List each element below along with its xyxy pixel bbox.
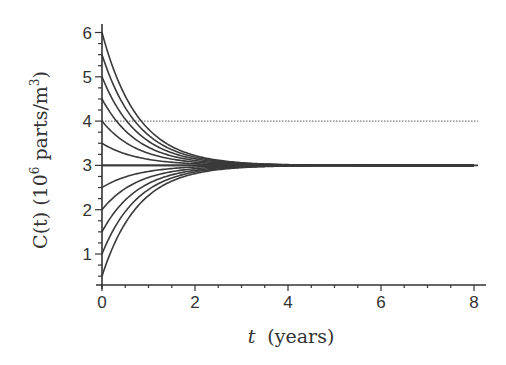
y-axis-title: C(t) (106 parts/m3) (28, 71, 51, 249)
x-tick-label: 2 (190, 293, 199, 312)
y-axis-ticks: 123456 (83, 24, 102, 277)
solution-curve (102, 55, 474, 166)
y-axis-title-prefix: C(t) (10 (29, 174, 51, 249)
x-axis-ticks: 02468 (97, 285, 478, 312)
x-tick-label: 8 (469, 293, 478, 312)
axes: 02468 123456 (83, 24, 486, 313)
x-tick-label: 4 (283, 293, 292, 312)
y-axis-title-exp: 6 (28, 167, 42, 175)
y-axis-title-exp2: 3 (28, 79, 42, 87)
y-tick-label: 1 (83, 245, 92, 264)
x-tick-label: 0 (97, 293, 106, 312)
solution-curve (102, 165, 474, 276)
y-axis-title-mid: parts/m (29, 86, 51, 166)
y-tick-label: 6 (83, 24, 92, 43)
y-tick-label: 3 (83, 156, 92, 175)
solution-curve (102, 33, 474, 166)
x-axis-title-unit: (years) (267, 325, 334, 347)
solution-curves (102, 33, 474, 277)
y-tick-label: 5 (83, 68, 92, 87)
y-tick-label: 4 (83, 112, 92, 131)
y-axis-title-suffix: ) (29, 71, 51, 78)
x-axis-title: t (years) (248, 325, 335, 347)
x-axis-title-variable: t (248, 325, 256, 347)
y-tick-label: 2 (83, 201, 92, 220)
solution-curve (102, 121, 474, 165)
chart: 02468 123456 t (years) C(t) (106 parts/m… (0, 0, 506, 365)
x-tick-label: 6 (376, 293, 385, 312)
solution-curve (102, 165, 474, 209)
